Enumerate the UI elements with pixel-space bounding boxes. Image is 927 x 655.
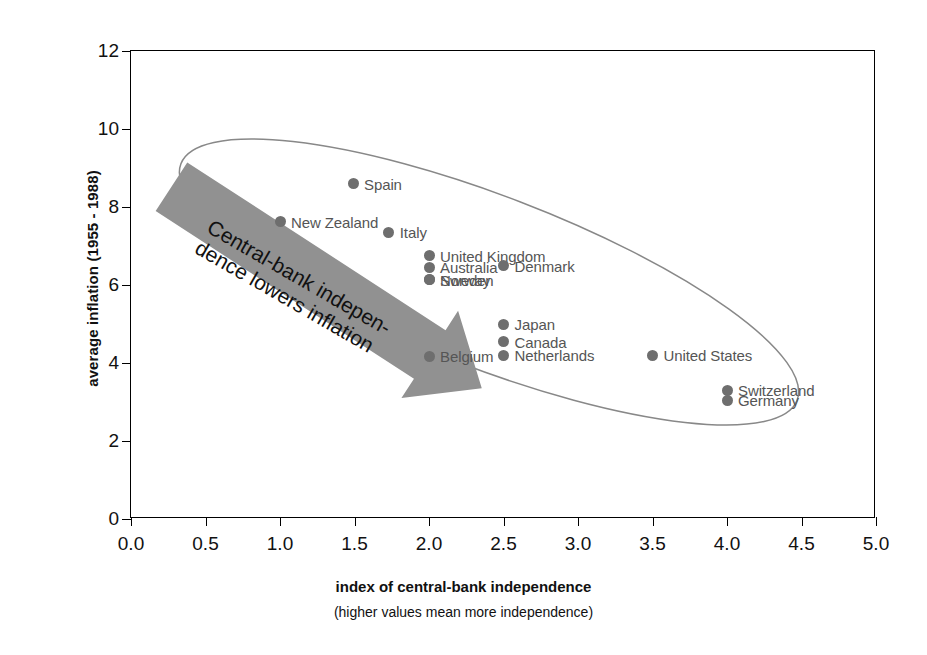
x-axis-tick-label: 4.5 xyxy=(788,533,814,555)
y-axis-tick-label: 2 xyxy=(108,430,119,452)
data-point xyxy=(498,350,509,361)
data-point-label: Japan xyxy=(515,316,555,333)
x-axis-tick-mark xyxy=(355,517,356,526)
x-axis-tick-mark xyxy=(206,517,207,526)
x-axis-tick-label: 0.5 xyxy=(192,533,218,555)
data-point-label: Italy xyxy=(400,224,427,241)
data-point-label: New Zealand xyxy=(291,213,378,230)
x-axis-tick-mark xyxy=(429,517,430,526)
x-axis-tick-label: 1.0 xyxy=(267,533,293,555)
data-point-label: Denmark xyxy=(515,257,575,274)
x-axis-title: index of central-bank independence xyxy=(0,578,927,595)
data-point xyxy=(348,178,359,189)
trend-annotation: Central-bank indepen- dence lowers infla… xyxy=(191,215,395,361)
x-axis-tick-mark xyxy=(504,517,505,526)
x-axis-subtitle: (higher values mean more independence) xyxy=(0,604,927,620)
data-point-label: Norway xyxy=(440,271,490,288)
y-axis-tick-label: 4 xyxy=(108,352,119,374)
y-axis-tick-mark xyxy=(122,519,131,520)
y-axis-tick-mark xyxy=(122,129,131,130)
y-axis-tick-mark xyxy=(122,51,131,52)
y-axis-tick-mark xyxy=(122,285,131,286)
data-point xyxy=(498,319,509,330)
x-axis-tick-mark xyxy=(280,517,281,526)
data-point-label: Spain xyxy=(364,175,402,192)
x-axis-tick-label: 3.5 xyxy=(639,533,665,555)
x-axis-tick-label: 3.0 xyxy=(565,533,591,555)
x-axis-tick-label: 2.0 xyxy=(416,533,442,555)
y-axis-tick-label: 6 xyxy=(108,274,119,296)
x-axis-tick-mark xyxy=(131,517,132,526)
x-axis-tick-label: 2.5 xyxy=(490,533,516,555)
data-point-label: United States xyxy=(664,347,753,364)
data-point xyxy=(647,350,658,361)
data-point xyxy=(383,227,394,238)
data-point xyxy=(498,260,509,271)
chart-figure: average inflation (1955 - 1988) Central-… xyxy=(0,0,927,655)
data-point-label: Belgium xyxy=(440,348,494,365)
y-axis-tick-mark xyxy=(122,207,131,208)
y-axis-tick-mark xyxy=(122,363,131,364)
x-axis-tick-mark xyxy=(876,517,877,526)
y-axis-tick-mark xyxy=(122,441,131,442)
x-axis-tick-label: 5.0 xyxy=(863,533,889,555)
plot-area: Central-bank indepen- dence lowers infla… xyxy=(130,50,875,518)
x-axis-tick-mark xyxy=(653,517,654,526)
data-point xyxy=(424,351,435,362)
x-axis-tick-label: 0.0 xyxy=(118,533,144,555)
data-point xyxy=(498,336,509,347)
data-point-label: Netherlands xyxy=(515,347,595,364)
y-axis-tick-label: 8 xyxy=(108,196,119,218)
data-point xyxy=(424,262,435,273)
data-point xyxy=(275,216,286,227)
x-axis-tick-label: 4.0 xyxy=(714,533,740,555)
y-axis-tick-label: 10 xyxy=(98,118,119,140)
y-axis-tick-label: 12 xyxy=(98,40,119,62)
x-axis-tick-mark xyxy=(802,517,803,526)
y-axis-tick-label: 0 xyxy=(108,508,119,530)
x-axis-tick-mark xyxy=(727,517,728,526)
data-point xyxy=(722,395,733,406)
data-point xyxy=(424,274,435,285)
x-axis-tick-label: 1.5 xyxy=(341,533,367,555)
data-point xyxy=(424,250,435,261)
data-point-label: Germany xyxy=(738,392,799,409)
x-axis-tick-mark xyxy=(578,517,579,526)
